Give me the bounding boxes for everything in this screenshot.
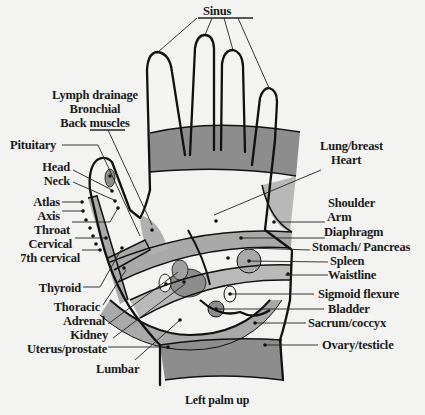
label-ovary-testicle: Ovary/testicle (322, 338, 393, 352)
label-lumbar: Lumbar (96, 362, 139, 376)
label-back-muscles: Back muscles (45, 116, 145, 130)
label-head: Head (0, 160, 70, 174)
caption: Left palm up (185, 393, 249, 407)
label-throat: Throat (0, 223, 70, 237)
adrenal-blob (172, 260, 188, 280)
label-atlas: Atlas (0, 195, 60, 209)
label-sigmoid-flexure: Sigmoid flexure (318, 287, 399, 301)
label-pituitary: Pituitary (10, 138, 56, 152)
label-7th-cervical: 7th cervical (0, 251, 80, 265)
label-thoracic: Thoracic (0, 300, 100, 314)
label-diaphragm: Diaphragm (324, 225, 383, 239)
label-bronchial: Bronchial (45, 102, 145, 116)
label-sacrum-coccyx: Sacrum/coccyx (308, 316, 386, 330)
label-thyroid: Thyroid (0, 281, 81, 295)
label-bladder: Bladder (328, 302, 370, 316)
label-adrenal: Adrenal (0, 314, 105, 328)
label-heart: Heart (331, 153, 361, 167)
label-cervical: Cervical (0, 237, 72, 251)
lung-band (150, 125, 300, 176)
label-spleen: Spleen (330, 254, 364, 268)
label-arm: Arm (327, 210, 351, 224)
label-uterus-prostate: Uterus/prostate (0, 342, 107, 356)
label-neck: Neck (0, 174, 70, 188)
label-stomach-pancreas: Stomach/ Pancreas (312, 240, 410, 254)
label-shoulder: Shoulder (328, 196, 375, 210)
label-lymph-drainage: Lymph drainage (45, 88, 145, 102)
label-sinus: Sinus (203, 4, 231, 18)
reflexology-diagram: Sinus Lymph drainage Bronchial Back musc… (0, 0, 425, 415)
label-axis: Axis (0, 209, 60, 223)
label-kidney: Kidney (0, 328, 108, 342)
label-lung-breast: Lung/breast (320, 139, 383, 153)
label-waistline: Waistline (328, 268, 376, 282)
